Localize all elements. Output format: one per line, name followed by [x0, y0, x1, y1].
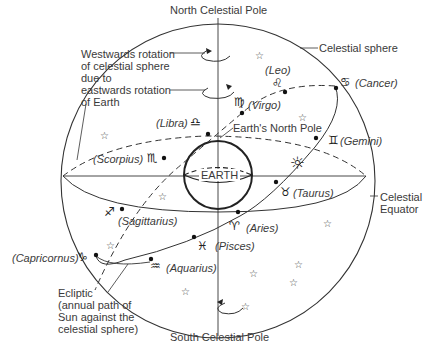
- ecliptic-label-line4: celestial sphere): [58, 323, 138, 335]
- zodiac-aquarius-name: (Aquarius): [166, 262, 217, 274]
- rotation-arrowhead-top: [206, 48, 212, 54]
- taurus-symbol-icon: ♉: [280, 186, 291, 198]
- zodiac-sagittarius-name: (Sagittarius): [118, 215, 177, 227]
- leader-rotation-curve: [77, 104, 86, 160]
- zodiac-taurus-name: (Taurus): [293, 187, 334, 199]
- zodiac-leo-name: (Leo): [265, 64, 291, 76]
- zodiac-scorpius-name: (Scorpius): [93, 153, 143, 165]
- rotation-arrow-top: [201, 50, 230, 61]
- sun-icon: ☼: [290, 155, 305, 172]
- leo-symbol-icon: ♌: [272, 77, 283, 89]
- star-icon: ☆: [100, 131, 109, 141]
- star-icon: ☆: [289, 278, 298, 288]
- aquarius-symbol-icon: ♒: [150, 260, 161, 272]
- north-celestial-pole-label: North Celestial Pole: [170, 4, 267, 16]
- zodiac-libra-name: (Libra): [156, 117, 188, 129]
- celestial-sphere-label: Celestial sphere: [319, 42, 398, 54]
- pisces-symbol-icon: ♓: [197, 240, 208, 252]
- star-icon: ☆: [255, 51, 264, 61]
- virgo-symbol-icon: ♍: [234, 96, 245, 108]
- earth-north-pole-label: Earth's North Pole: [233, 122, 322, 134]
- star-icon: ☆: [241, 302, 250, 312]
- celestial-equator-label-line2: Equator: [380, 203, 419, 215]
- rotation-annotation-line1: Westwards rotation: [81, 48, 175, 60]
- celestial-equator-label-line1: Celestial: [380, 191, 422, 203]
- zodiac-virgo-name: (Virgo): [248, 99, 281, 111]
- ecliptic-label-line2: (annual path of: [58, 299, 131, 311]
- leader-ecliptic: [108, 264, 128, 292]
- zodiac-capricornus-name: (Capricornus): [12, 252, 79, 264]
- capricornus-symbol-icon: ♑: [77, 251, 88, 263]
- star-icon: ☆: [323, 219, 332, 229]
- star-icon: ☆: [106, 241, 115, 251]
- zodiac-cancer-name: (Cancer): [355, 77, 398, 89]
- rotation-arrowhead-mid: [226, 84, 232, 90]
- gemini-symbol-icon: ♊: [328, 134, 339, 146]
- star-icon: ☆: [158, 192, 167, 202]
- scorpius-symbol-icon: ♏: [147, 152, 158, 164]
- zodiac-pisces-name: (Pisces): [215, 240, 255, 252]
- libra-symbol-icon: ♎: [190, 116, 201, 128]
- earth-label: EARTH: [199, 169, 240, 181]
- star-icon: ☆: [298, 113, 307, 123]
- aries-symbol-icon: ♈: [229, 220, 240, 232]
- zodiac-gemini-name: (Gemini): [340, 135, 382, 147]
- star-icon: ☆: [181, 287, 190, 297]
- ecliptic-label-line1: Ecliptic: [58, 287, 93, 299]
- cancer-symbol-icon: ♋: [340, 76, 351, 88]
- sagittarius-symbol-icon: ♐: [104, 206, 115, 218]
- rotation-annotation-line4: eastwards rotation: [81, 84, 171, 96]
- south-celestial-pole-label: South Celestial Pole: [170, 331, 269, 343]
- zodiac-aries-name: (Aries): [246, 222, 278, 234]
- ecliptic-bottom-curve: [96, 256, 150, 264]
- star-icon: ☆: [294, 260, 303, 270]
- rotation-annotation-line3: due to: [81, 72, 112, 84]
- star-icon: ☆: [249, 269, 258, 279]
- rotation-annotation-line5: of Earth: [81, 96, 120, 108]
- rotation-annotation-line2: of celestial sphere: [81, 60, 170, 72]
- ecliptic-label-line3: Sun against the: [58, 311, 134, 323]
